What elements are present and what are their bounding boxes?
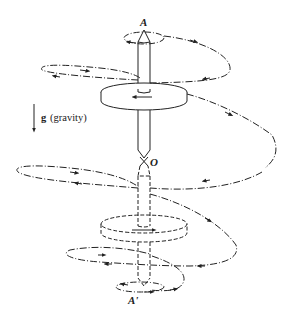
label-a: A — [139, 16, 147, 28]
label-a-prime: A' — [127, 294, 138, 306]
mirror-top-body — [101, 166, 187, 286]
gravity-symbol: g — [41, 112, 47, 123]
spinning-top-diagram: A O A' g (gravity) — [0, 0, 288, 316]
gravity-label: (gravity) — [50, 112, 87, 124]
lower-path-arrows — [98, 218, 210, 266]
upper-top-body — [101, 30, 187, 158]
tip-a-precession-loop — [124, 32, 164, 44]
label-o: O — [150, 156, 158, 168]
diagram-canvas: A O A' g (gravity) — [0, 0, 288, 316]
